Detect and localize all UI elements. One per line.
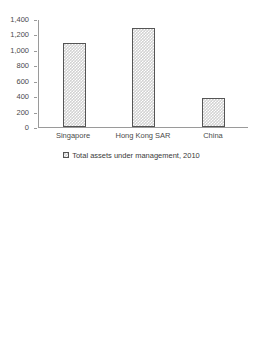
x-label-singapore: Singapore: [38, 131, 108, 140]
y-axis-tick: [34, 66, 37, 67]
bar-singapore: [63, 43, 86, 127]
y-axis-tick: [34, 51, 37, 52]
y-axis-tick: [34, 97, 37, 98]
bar-hong-kong-sar: [132, 28, 155, 127]
y-axis-tick: [34, 20, 37, 21]
top-chart-y-axis-ticks: [0, 20, 40, 128]
legend-label: Total assets under management, 2010: [72, 151, 200, 161]
bar-slot: [179, 20, 248, 127]
x-label-china: China: [178, 131, 248, 140]
y-axis-tick: [34, 35, 37, 36]
bar-china: [202, 98, 225, 127]
legend-swatch-icon: [63, 152, 69, 158]
top-chart-bars: [40, 20, 248, 127]
chart-aum-percentage-of-market-capitalization: 140 120 100 80 60 40 20 0: [0, 170, 263, 341]
chart-total-assets-under-management: 1,400 1,200 1,000 800 600 400 200 0: [0, 0, 263, 170]
top-chart-x-axis-labels: Singapore Hong Kong SAR China: [38, 131, 248, 140]
y-axis-tick: [34, 128, 37, 129]
y-axis-tick: [34, 113, 37, 114]
bar-slot: [109, 20, 178, 127]
legend-entry: Total assets under management, 2010: [63, 151, 200, 161]
top-chart-plot-area: [38, 20, 248, 128]
x-label-hong-kong-sar: Hong Kong SAR: [108, 131, 178, 140]
top-chart-legend: Total assets under management, 2010: [0, 151, 263, 161]
bar-slot: [40, 20, 109, 127]
y-axis-tick: [34, 82, 37, 83]
